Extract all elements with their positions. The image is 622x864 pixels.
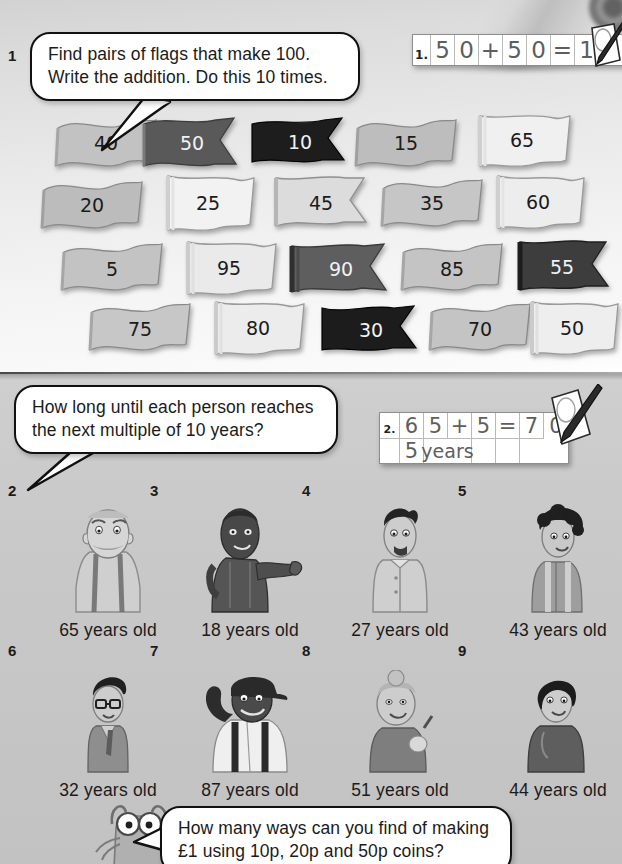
person-card-2: 2 65 years old: [38, 502, 178, 641]
flag-45[interactable]: 45: [268, 174, 374, 232]
task-3-line-2: £1 using 10p, 20p and 50p coins?: [178, 840, 494, 863]
flag-50-light[interactable]: 50: [522, 298, 622, 358]
answer-cell[interactable]: [380, 438, 400, 463]
person-caption: 87 years old: [180, 780, 320, 801]
answer-cell[interactable]: 0: [527, 35, 551, 65]
flag-35[interactable]: 35: [378, 174, 486, 232]
person-number: 9: [458, 642, 466, 659]
answer-cell[interactable]: 7: [520, 413, 544, 438]
person-caption: 18 years old: [180, 620, 320, 641]
flag-65[interactable]: 65: [470, 110, 574, 170]
answer-cell[interactable]: 0: [455, 35, 479, 65]
answer-cell[interactable]: =: [496, 413, 520, 438]
pencil-and-paper-icon: [588, 20, 622, 74]
answer-cell[interactable]: =: [551, 35, 575, 65]
figure-young-man: [330, 502, 470, 614]
person-number: 4: [302, 482, 310, 499]
person-caption: 43 years old: [488, 620, 622, 641]
flag-15[interactable]: 15: [352, 114, 460, 172]
figure-old-man-cap: [180, 662, 320, 774]
task-2-answer-grid[interactable]: 2. 6 5 + 5 = 7 0 5 years: [379, 412, 569, 464]
flag-90-dark[interactable]: 90: [286, 240, 396, 298]
task-2-line-1: How long until each person reaches: [32, 396, 320, 419]
task-3-line-1: How many ways can you find of making: [178, 817, 494, 840]
flag-55-dark[interactable]: 55: [512, 238, 612, 296]
answer-grid-row-2: 5 years: [380, 438, 568, 463]
answer-cell[interactable]: 5: [424, 413, 448, 438]
flag-10-black[interactable]: 10: [248, 116, 352, 168]
answer-cell[interactable]: years: [424, 438, 472, 463]
figure-glasses-man: [38, 662, 178, 774]
figure-bob-woman: [488, 662, 622, 774]
answer-row-label: 2.: [380, 413, 400, 438]
task-1-bubble-tail: [96, 96, 176, 154]
person-caption: 27 years old: [330, 620, 470, 641]
answer-cell[interactable]: 6: [400, 413, 424, 438]
pencil-and-paper-icon-2: [548, 384, 604, 452]
flag-80[interactable]: 80: [206, 298, 310, 358]
answer-cell[interactable]: 5: [472, 413, 496, 438]
answer-cell[interactable]: 5: [431, 35, 455, 65]
task-1-line-2: Write the addition. Do this 10 times.: [48, 66, 342, 89]
person-number: 7: [150, 642, 158, 659]
task-1-instruction-bubble: Find pairs of flags that make 100. Write…: [30, 32, 360, 101]
person-number: 6: [8, 642, 16, 659]
person-number: 3: [150, 482, 158, 499]
answer-cell[interactable]: [496, 438, 520, 463]
figure-bun-woman: [330, 662, 470, 774]
flag-20[interactable]: 20: [38, 176, 146, 234]
person-card-4: 27 years old 4: [330, 502, 470, 641]
person-card-5: 5 43 years old: [488, 502, 622, 641]
person-number: 2: [8, 482, 16, 499]
answer-cell[interactable]: 5: [503, 35, 527, 65]
task-1-line-1: Find pairs of flags that make 100.: [48, 43, 342, 66]
answer-grid-row-1: 2. 6 5 + 5 = 7 0: [380, 413, 568, 438]
person-number: 8: [302, 642, 310, 659]
flag-85[interactable]: 85: [398, 240, 506, 298]
task-3-instruction-bubble: How many ways can you find of making £1 …: [160, 806, 512, 864]
person-card-3: 3 18 years old: [180, 502, 320, 641]
flag-25[interactable]: 25: [158, 172, 258, 234]
task-2-instruction-bubble: How long until each person reaches the n…: [14, 385, 338, 454]
person-card-6: 6 32 years old: [38, 662, 178, 801]
flag-5[interactable]: 5: [58, 240, 166, 298]
figure-curly-woman: [488, 502, 622, 614]
person-caption: 51 years old: [330, 780, 470, 801]
answer-cell[interactable]: +: [479, 35, 503, 65]
answer-cell[interactable]: +: [448, 413, 472, 438]
person-card-9: 9 44 years old: [488, 662, 622, 801]
answer-cell[interactable]: [520, 438, 544, 463]
flag-30-black[interactable]: 30: [318, 304, 424, 356]
person-card-8: 8 51 years old: [330, 662, 470, 801]
answer-cell[interactable]: [472, 438, 496, 463]
flag-60[interactable]: 60: [488, 172, 588, 232]
task-1-number: 1: [8, 47, 16, 64]
person-caption: 65 years old: [38, 620, 178, 641]
task-2-line-2: the next multiple of 10 years?: [32, 419, 320, 442]
flag-95[interactable]: 95: [178, 238, 280, 298]
flag-75[interactable]: 75: [86, 300, 194, 358]
person-caption: 44 years old: [488, 780, 622, 801]
person-number: 5: [458, 482, 466, 499]
figure-elderly-man: [38, 502, 178, 614]
person-card-7: 7 87 years old: [180, 662, 320, 801]
answer-row-label: 1.: [413, 35, 431, 65]
flag-70[interactable]: 70: [426, 300, 534, 358]
figure-young-woman: [180, 502, 320, 614]
